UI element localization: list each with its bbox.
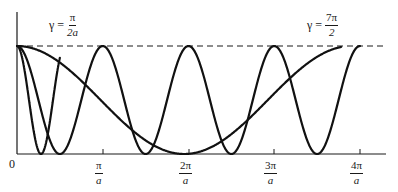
annotation-gamma-fast-lhs: γ — [307, 18, 312, 33]
annotation-gamma-slow-lhs: γ — [49, 18, 54, 33]
x-tick-label-4-num: 4π — [350, 160, 363, 174]
curve-gamma-slow — [17, 46, 341, 154]
x-tick-label-1: π a — [95, 160, 103, 186]
x-tick-label-4: 4π a — [350, 160, 363, 186]
annotation-gamma-slow-frac: π 2a — [67, 12, 78, 38]
annotation-gamma-slow-eq: = — [57, 18, 64, 33]
annotation-gamma-fast-frac: 7π 2 — [325, 12, 338, 38]
annotation-gamma-slow: γ = π 2a — [49, 12, 78, 38]
x-tick-label-3: 3π a — [264, 160, 277, 186]
x-tick-label-2-den: a — [183, 174, 189, 187]
x-origin-label: 0 — [9, 158, 15, 170]
x-tick-label-2: 2π a — [179, 160, 192, 186]
annotation-gamma-fast-den: 2 — [329, 26, 335, 39]
x-tick-label-1-den: a — [96, 174, 102, 187]
x-tick-label-3-den: a — [268, 174, 274, 187]
x-tick-label-1-num: π — [95, 160, 103, 174]
x-tick-label-4-den: a — [354, 174, 360, 187]
annotation-gamma-slow-den: 2a — [67, 26, 78, 39]
annotation-gamma-fast: γ = 7π 2 — [307, 12, 338, 38]
annotation-gamma-fast-num: 7π — [325, 12, 338, 26]
x-tick-label-3-num: 3π — [264, 160, 277, 174]
x-tick-label-2-num: 2π — [179, 160, 192, 174]
annotation-gamma-fast-eq: = — [315, 18, 322, 33]
annotation-gamma-slow-num: π — [69, 12, 77, 26]
